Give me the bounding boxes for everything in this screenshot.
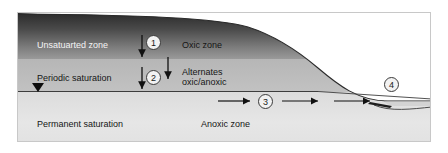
surface-water-body: [384, 101, 431, 106]
callout-circle-3[interactable]: 3: [258, 94, 273, 109]
groundwater-cross-section-figure: · ·· · ··: [0, 0, 448, 153]
cut-off-caption-text: · ·· · ··: [140, 0, 400, 1]
label-unsaturated-zone: Unsatuarted zone: [37, 40, 108, 51]
label-anoxic-zone: Anoxic zone: [201, 119, 250, 130]
label-oxic-anoxic: oxic/anoxic: [182, 77, 227, 88]
label-oxic-zone: Oxic zone: [182, 40, 222, 51]
callout-circle-2[interactable]: 2: [146, 70, 161, 85]
label-periodic-saturation: Periodic saturation: [37, 73, 112, 84]
water-table-triangle-icon: [32, 83, 44, 92]
callout-circle-4[interactable]: 4: [384, 77, 399, 92]
label-permanent-saturation: Permanent saturation: [37, 119, 123, 130]
callout-circle-1[interactable]: 1: [146, 35, 161, 50]
cross-section-panel: 1 2 3 4 Unsatuarted zone Periodic satura…: [17, 12, 431, 142]
